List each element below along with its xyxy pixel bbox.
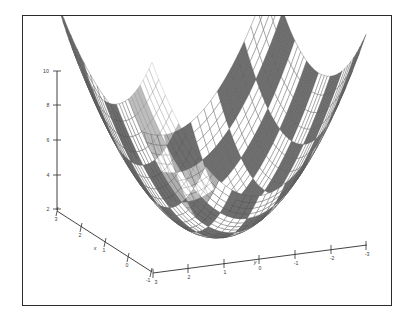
x-tick-label-neg1: -1 <box>146 277 151 283</box>
x-tick-label-1: 1 <box>103 247 106 253</box>
surface-facet <box>264 0 274 2</box>
x-tick-label-3: 3 <box>55 216 58 222</box>
z-axis: 10 8 6 4 2 <box>43 68 61 212</box>
surface-facet <box>73 44 83 68</box>
y-tick-label-neg2: -2 <box>330 255 335 261</box>
surface-facet <box>267 0 277 12</box>
x-axis: 3 2 1 0 -1 x <box>55 207 152 283</box>
x-axis-label: x <box>93 245 97 251</box>
z-tick-label-4: 4 <box>47 172 50 178</box>
z-tick-label-10: 10 <box>43 68 49 74</box>
plot-canvas: 10 8 6 4 2 3 2 <box>0 0 416 326</box>
y-tick-label-1: 1 <box>224 269 227 275</box>
y-axis: 3 2 1 0 -1 -2 -3 y <box>153 241 369 285</box>
z-tick-label-6: 6 <box>47 137 50 143</box>
y-tick-label-2: 2 <box>188 274 191 280</box>
surface-facet <box>356 34 366 59</box>
surface-plot-3d: 10 8 6 4 2 3 2 <box>0 0 416 326</box>
x-tick-neg1 <box>150 268 152 277</box>
y-tick-label-neg3: -3 <box>365 251 370 257</box>
y-tick-label-0: 0 <box>259 265 262 271</box>
y-axis-label: y <box>253 259 257 265</box>
y-tick-label-3: 3 <box>155 279 158 285</box>
x-tick-label-0: 0 <box>126 262 129 268</box>
figure-root: 10 8 6 4 2 3 2 <box>0 0 416 326</box>
y-tick-label-neg1: -1 <box>294 260 299 266</box>
z-tick-label-8: 8 <box>47 102 50 108</box>
x-tick-label-2: 2 <box>79 232 82 238</box>
x-tick-2 <box>80 223 82 232</box>
x-axis-line <box>57 211 152 272</box>
z-tick-label-2: 2 <box>47 206 50 212</box>
surface-mesh <box>57 0 366 238</box>
